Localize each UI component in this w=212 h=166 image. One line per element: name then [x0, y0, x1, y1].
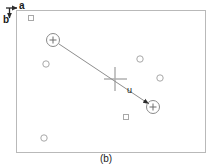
figure-canvas	[0, 0, 212, 166]
figure-caption: (b)	[0, 153, 212, 165]
vector-label-u: u	[127, 86, 132, 95]
figure-panel-b: a b u (b)	[0, 0, 212, 166]
plot-frame	[17, 11, 206, 153]
axis-label-a: a	[19, 1, 25, 11]
axis-label-b: b	[3, 15, 9, 25]
